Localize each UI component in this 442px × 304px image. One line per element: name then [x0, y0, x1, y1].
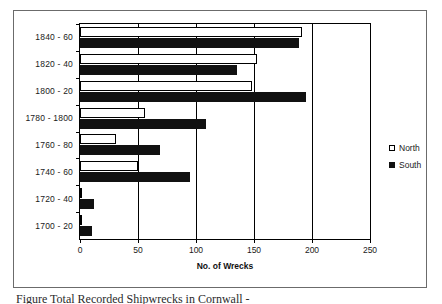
plot-area: No. of Wrecks 0501001502002501700 - 2017… [79, 23, 371, 240]
bar-group [80, 158, 370, 185]
x-axis-tick-mark [370, 239, 371, 243]
y-axis-tick-label: 1780 - 1800 [25, 113, 73, 123]
filled-square-icon [389, 162, 395, 168]
bar-south[interactable] [80, 145, 160, 155]
bar-group [80, 24, 370, 51]
bar-group [80, 212, 370, 239]
x-axis-tick-label: 200 [305, 245, 319, 255]
y-axis-tick-label: 1840 - 60 [35, 32, 73, 42]
y-axis-tick-mark [76, 212, 80, 213]
y-axis-tick-label: 1820 - 40 [35, 59, 73, 69]
bar-south[interactable] [80, 38, 299, 48]
chart-legend: North South [389, 143, 421, 177]
y-axis-tick-label: 1760 - 80 [35, 140, 73, 150]
bar-north[interactable] [80, 108, 145, 118]
figure-caption: Figure Total Recorded Shipwrecks in Corn… [16, 292, 426, 304]
y-axis-tick-mark [76, 132, 80, 133]
x-axis-tick-mark [254, 239, 255, 243]
x-axis-tick-label: 150 [247, 245, 261, 255]
x-axis-tick-label: 50 [133, 245, 142, 255]
bar-south[interactable] [80, 65, 237, 75]
bar-south[interactable] [80, 199, 94, 209]
bar-north[interactable] [80, 188, 82, 198]
legend-label-north: North [399, 143, 420, 153]
y-axis-tick-label: 1700 - 20 [35, 221, 73, 231]
legend-label-south: South [399, 160, 421, 170]
y-axis-tick-label: 1720 - 40 [35, 194, 73, 204]
y-axis-tick-mark [76, 185, 80, 186]
x-axis-title: No. of Wrecks [80, 261, 370, 271]
bar-south[interactable] [80, 119, 206, 129]
legend-item-south[interactable]: South [389, 160, 421, 170]
y-axis-tick-mark [76, 158, 80, 159]
bar-south[interactable] [80, 92, 306, 102]
hollow-square-icon [389, 145, 395, 151]
y-axis-tick-mark [76, 24, 80, 25]
legend-item-north[interactable]: North [389, 143, 421, 153]
bar-group [80, 105, 370, 132]
bar-group [80, 132, 370, 159]
y-axis-tick-mark [76, 78, 80, 79]
bar-south[interactable] [80, 226, 92, 236]
x-axis-tick-label: 250 [363, 245, 377, 255]
bar-group [80, 78, 370, 105]
figure-frame: No. of Wrecks 0501001502002501700 - 2017… [13, 10, 427, 288]
bar-north[interactable] [80, 134, 116, 144]
bar-north[interactable] [80, 27, 302, 37]
y-axis-tick-label: 1740 - 60 [35, 167, 73, 177]
x-axis-tick-label: 100 [189, 245, 203, 255]
y-axis-tick-mark [76, 105, 80, 106]
x-axis-tick-mark [138, 239, 139, 243]
bar-north[interactable] [80, 161, 138, 171]
x-axis-tick-label: 0 [78, 245, 83, 255]
x-axis-tick-mark [196, 239, 197, 243]
y-axis-tick-mark [76, 51, 80, 52]
bar-north[interactable] [80, 54, 257, 64]
x-axis-tick-mark [312, 239, 313, 243]
y-axis-tick-label: 1800 - 20 [35, 86, 73, 96]
x-axis-tick-mark [80, 239, 81, 243]
bar-south[interactable] [80, 172, 190, 182]
bar-north[interactable] [80, 215, 82, 225]
bar-group [80, 185, 370, 212]
bar-group [80, 51, 370, 78]
bar-north[interactable] [80, 81, 252, 91]
